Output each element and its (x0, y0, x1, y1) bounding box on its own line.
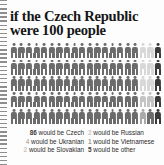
person-icon (132, 43, 138, 58)
legend-stat-left-0: 86 would be Czech (10, 129, 86, 138)
person-icon (132, 76, 138, 91)
person-icon (109, 60, 115, 75)
person-icon (87, 43, 93, 58)
person-icon (49, 109, 55, 124)
person-icon (49, 92, 55, 107)
person-icon (117, 92, 123, 107)
person-icon (71, 92, 77, 107)
person-icon (79, 60, 85, 75)
person-icon (109, 109, 115, 124)
person-icon (79, 92, 85, 107)
person-icon (147, 92, 153, 107)
person-icon (26, 76, 32, 91)
person-icon (71, 109, 77, 124)
person-icon (87, 109, 93, 124)
person-icon (64, 92, 70, 107)
person-icon (102, 60, 108, 75)
person-icon (125, 92, 131, 107)
person-icon (41, 60, 47, 75)
legend-stat-right-0: 2 would be Russian (88, 129, 161, 138)
person-icon (41, 43, 47, 58)
page-title: if the Czech Republic were 100 people (10, 0, 161, 37)
legend-stat-label: would be Ukranian (29, 138, 84, 145)
legend-stat-label: would be Slovakian (27, 146, 84, 153)
person-icon (18, 43, 24, 58)
person-icon (41, 92, 47, 107)
person-icon (125, 76, 131, 91)
person-icon (102, 76, 108, 91)
person-icon (56, 92, 62, 107)
person-icon (102, 92, 108, 107)
person-icon (56, 60, 62, 75)
person-icon (64, 109, 70, 124)
person-icon (64, 60, 70, 75)
legend-stat-label: would be Czech (37, 129, 84, 136)
person-icon (147, 109, 153, 124)
person-icon (11, 60, 17, 75)
person-icon (26, 60, 32, 75)
person-icon (18, 92, 24, 107)
person-icon (147, 43, 153, 58)
person-icon (125, 109, 131, 124)
legend-stat-number: 86 (30, 129, 37, 136)
legend-stat-right-2: 5 would be other (88, 146, 161, 155)
person-icon (132, 92, 138, 107)
person-icon (140, 60, 146, 75)
person-icon (117, 76, 123, 91)
notebook-binding-strip (0, 0, 7, 165)
person-icon (102, 43, 108, 58)
person-icon (41, 109, 47, 124)
person-icon (117, 43, 123, 58)
person-icon (71, 60, 77, 75)
person-icon (64, 76, 70, 91)
person-icon (79, 109, 85, 124)
person-icon (56, 76, 62, 91)
person-icon (94, 109, 100, 124)
person-icon (71, 43, 77, 58)
person-icon (64, 43, 70, 58)
person-icon (117, 109, 123, 124)
legend-stat-label: would be other (92, 146, 136, 153)
legend-stat-left-1: 4 would be Ukranian (10, 138, 86, 147)
person-icon (49, 43, 55, 58)
person-icon (33, 60, 39, 75)
person-icon (147, 60, 153, 75)
person-icon (11, 92, 17, 107)
card-content: if the Czech Republic were 100 people 86… (7, 0, 164, 165)
person-icon (26, 43, 32, 58)
person-icon (87, 60, 93, 75)
legend-column-left: 86 would be Czech4 would be Ukranian2 wo… (10, 129, 86, 155)
person-icon (11, 76, 17, 91)
person-icon (94, 76, 100, 91)
legend-stat-left-2: 2 would be Slovakian (10, 146, 86, 155)
person-icon (94, 60, 100, 75)
person-icon (140, 43, 146, 58)
person-icon (125, 60, 131, 75)
person-icon (18, 60, 24, 75)
person-icon (132, 60, 138, 75)
person-icon (87, 76, 93, 91)
person-icon (18, 109, 24, 124)
person-icon (155, 109, 161, 124)
person-icon (56, 43, 62, 58)
person-icon (79, 76, 85, 91)
person-icon (49, 60, 55, 75)
person-icon (11, 109, 17, 124)
legend-column-right: 2 would be Russian1 would be Vietnamese5… (88, 129, 161, 155)
person-icon (33, 43, 39, 58)
person-icon (125, 43, 131, 58)
person-icon (155, 43, 161, 58)
pictogram-grid (10, 43, 162, 125)
person-icon (132, 109, 138, 124)
person-icon (117, 60, 123, 75)
person-icon (26, 109, 32, 124)
person-icon (140, 109, 146, 124)
person-icon (79, 43, 85, 58)
person-icon (49, 76, 55, 91)
person-icon (109, 76, 115, 91)
legend-stat-label: would be Vietnamese (92, 138, 155, 145)
person-icon (155, 76, 161, 91)
person-icon (94, 43, 100, 58)
legend-stat-label: would be Russian (92, 129, 144, 136)
legend-stats: 86 would be Czech4 would be Ukranian2 wo… (10, 129, 161, 155)
